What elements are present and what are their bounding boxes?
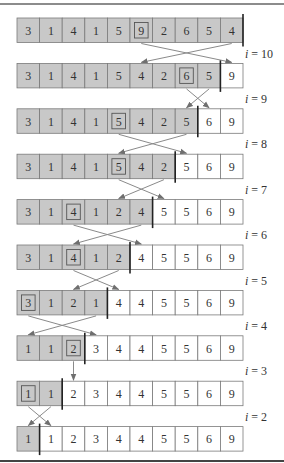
array-cell: 9 bbox=[220, 336, 243, 361]
cell-value: 9 bbox=[229, 432, 235, 446]
cell-value: 4 bbox=[71, 69, 77, 83]
cell-value: 4 bbox=[138, 387, 144, 401]
cell-value: 1 bbox=[48, 432, 54, 446]
cell-value: 1 bbox=[48, 69, 54, 83]
cell-value: 9 bbox=[229, 387, 235, 401]
array-row: 3141592654 bbox=[17, 14, 243, 47]
cell-value: 5 bbox=[161, 342, 167, 356]
array-cell: 5 bbox=[153, 290, 176, 315]
cell-value: 5 bbox=[184, 160, 190, 174]
cell-value: 5 bbox=[116, 160, 122, 174]
array-cell: 3 bbox=[85, 336, 108, 361]
cell-value: 4 bbox=[116, 342, 122, 356]
cell-value: 4 bbox=[229, 24, 235, 38]
cell-value: 1 bbox=[93, 160, 99, 174]
array-cell: 3 bbox=[85, 427, 108, 452]
array-cell: 4 bbox=[62, 18, 85, 43]
array-row: 1123445569 bbox=[17, 424, 243, 456]
array-cell: 5 bbox=[198, 63, 221, 88]
array-cell: 4 bbox=[130, 245, 153, 270]
array-cell: 1 bbox=[17, 381, 40, 406]
selection-sort-diagram: 3141592654314154265931415425693141542569… bbox=[0, 0, 284, 463]
array-row: 1123445569 bbox=[17, 378, 243, 410]
iteration-label: i = 7 bbox=[245, 183, 267, 197]
cell-value: 3 bbox=[25, 115, 31, 129]
cell-value: 2 bbox=[71, 432, 77, 446]
array-cell: 5 bbox=[198, 18, 221, 43]
array-cell: 5 bbox=[175, 381, 198, 406]
array-cell: 1 bbox=[85, 63, 108, 88]
cell-value: 5 bbox=[161, 251, 167, 265]
array-cell: 2 bbox=[153, 154, 176, 179]
array-cell: 4 bbox=[220, 18, 243, 43]
array-cell: 4 bbox=[130, 290, 153, 315]
cell-value: 3 bbox=[25, 296, 31, 310]
array-cell: 4 bbox=[62, 200, 85, 225]
array-cell: 1 bbox=[85, 154, 108, 179]
cell-value: 4 bbox=[138, 160, 144, 174]
cell-value: 1 bbox=[93, 296, 99, 310]
array-cell: 5 bbox=[153, 381, 176, 406]
cell-value: 6 bbox=[206, 432, 212, 446]
cell-value: 5 bbox=[206, 24, 212, 38]
cell-value: 4 bbox=[138, 432, 144, 446]
iteration-label: i = 2 bbox=[245, 410, 267, 424]
array-cell: 5 bbox=[175, 290, 198, 315]
array-cell: 9 bbox=[220, 154, 243, 179]
array-cell: 9 bbox=[220, 245, 243, 270]
array-cell: 5 bbox=[107, 18, 130, 43]
array-cell: 6 bbox=[198, 290, 221, 315]
cell-value: 2 bbox=[161, 69, 167, 83]
cell-value: 4 bbox=[138, 251, 144, 265]
cell-value: 5 bbox=[116, 69, 122, 83]
cell-value: 1 bbox=[25, 342, 31, 356]
cell-value: 5 bbox=[184, 342, 190, 356]
array-cell: 1 bbox=[40, 336, 63, 361]
cell-value: 1 bbox=[93, 251, 99, 265]
array-cell: 5 bbox=[175, 336, 198, 361]
array-cell: 9 bbox=[220, 200, 243, 225]
array-cell: 9 bbox=[220, 427, 243, 452]
cell-value: 1 bbox=[93, 24, 99, 38]
array-cell: 1 bbox=[40, 381, 63, 406]
array-cell: 6 bbox=[198, 109, 221, 134]
array-cell: 4 bbox=[107, 290, 130, 315]
cell-value: 5 bbox=[161, 387, 167, 401]
cell-value: 3 bbox=[93, 387, 99, 401]
array-cell: 9 bbox=[220, 381, 243, 406]
array-cell: 1 bbox=[40, 290, 63, 315]
cell-value: 5 bbox=[116, 115, 122, 129]
array-cell: 4 bbox=[130, 154, 153, 179]
array-cell: 1 bbox=[85, 245, 108, 270]
array-cell: 4 bbox=[130, 381, 153, 406]
array-cell: 2 bbox=[107, 245, 130, 270]
cell-value: 1 bbox=[93, 115, 99, 129]
cell-value: 2 bbox=[161, 24, 167, 38]
cell-value: 4 bbox=[71, 24, 77, 38]
cell-value: 3 bbox=[25, 251, 31, 265]
array-cell: 5 bbox=[107, 109, 130, 134]
cell-value: 5 bbox=[184, 432, 190, 446]
cell-value: 1 bbox=[48, 160, 54, 174]
array-cell: 5 bbox=[175, 427, 198, 452]
array-cell: 5 bbox=[175, 245, 198, 270]
array-row: 3141542569 bbox=[17, 151, 243, 183]
cell-value: 2 bbox=[161, 160, 167, 174]
array-cell: 4 bbox=[62, 245, 85, 270]
cell-value: 4 bbox=[138, 342, 144, 356]
cell-value: 4 bbox=[138, 296, 144, 310]
array-cell: 1 bbox=[40, 245, 63, 270]
array-cell: 2 bbox=[62, 290, 85, 315]
array-cell: 5 bbox=[153, 336, 176, 361]
array-cell: 6 bbox=[198, 427, 221, 452]
array-cell: 3 bbox=[17, 154, 40, 179]
cell-value: 5 bbox=[184, 296, 190, 310]
array-cell: 1 bbox=[40, 18, 63, 43]
cell-value: 9 bbox=[229, 160, 235, 174]
cell-value: 6 bbox=[184, 24, 190, 38]
cell-value: 1 bbox=[48, 296, 54, 310]
array-cell: 3 bbox=[17, 109, 40, 134]
array-cell: 4 bbox=[130, 109, 153, 134]
cell-value: 9 bbox=[138, 24, 144, 38]
array-cell: 4 bbox=[130, 63, 153, 88]
